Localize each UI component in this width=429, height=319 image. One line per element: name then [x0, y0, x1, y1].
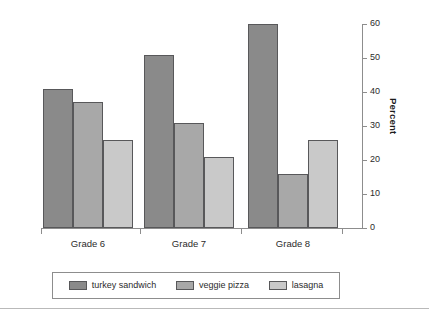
legend-swatch [69, 281, 87, 290]
bar [308, 140, 338, 228]
y-axis-tick-label: 20 [370, 155, 380, 164]
bar-chart: 0102030405060 Percent Grade 6Grade 7Grad… [0, 0, 429, 319]
legend-swatch [176, 281, 194, 290]
bar [103, 140, 133, 228]
legend-label: turkey sandwich [92, 281, 157, 290]
legend-swatch [269, 281, 287, 290]
y-axis-tick [362, 160, 367, 161]
legend-label: veggie pizza [199, 281, 249, 290]
y-axis-tick [362, 228, 367, 229]
legend-label: lasagna [292, 281, 324, 290]
bar [174, 123, 204, 228]
legend-item: lasagna [269, 281, 324, 290]
y-axis-tick [362, 92, 367, 93]
x-axis-tick [342, 229, 343, 234]
x-axis-category-label: Grade 7 [149, 238, 229, 249]
x-axis-category-label: Grade 6 [48, 238, 128, 249]
bar [248, 24, 278, 228]
y-axis-tick-label: 0 [370, 223, 375, 232]
y-axis-tick-label: 40 [370, 87, 380, 96]
bar [43, 89, 73, 228]
bar [144, 55, 174, 228]
y-axis-tick [362, 58, 367, 59]
bar [204, 157, 234, 228]
legend-item: turkey sandwich [69, 281, 157, 290]
x-axis-line [41, 228, 362, 229]
y-axis-tick [362, 24, 367, 25]
y-axis-tick [362, 194, 367, 195]
chart-legend: turkey sandwichveggie pizzalasagna [52, 272, 340, 299]
y-axis-tick [362, 126, 367, 127]
footer-divider [0, 308, 429, 309]
x-axis-tick [241, 229, 242, 234]
legend-item: veggie pizza [176, 281, 249, 290]
bar [278, 174, 308, 228]
y-axis-title: Percent [388, 98, 399, 134]
y-axis-tick-label: 30 [370, 121, 380, 130]
bar [73, 102, 103, 228]
x-axis-tick [41, 229, 42, 234]
y-axis-tick-label: 50 [370, 53, 380, 62]
x-axis-tick [140, 229, 141, 234]
y-axis-tick-label: 10 [370, 189, 380, 198]
y-axis-tick-label: 60 [370, 19, 380, 28]
x-axis-category-label: Grade 8 [253, 238, 333, 249]
